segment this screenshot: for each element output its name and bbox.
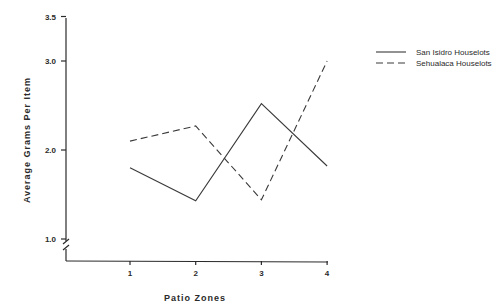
y-tick-label: 3.5 bbox=[45, 13, 57, 22]
x-axis-title: Patio Zones bbox=[164, 293, 226, 303]
series-line-2 bbox=[130, 61, 327, 200]
line-chart: 1.02.03.03.5 1234 Average Grams Per Item… bbox=[0, 0, 492, 308]
legend-label: Sehualaca Houselots bbox=[416, 59, 492, 68]
y-axis: 1.02.03.03.5 bbox=[45, 13, 69, 262]
y-tick-label: 3.0 bbox=[45, 57, 57, 66]
y-tick-label: 1.0 bbox=[45, 235, 57, 244]
y-tick-label: 2.0 bbox=[45, 146, 57, 155]
x-tick-label: 2 bbox=[193, 269, 198, 278]
x-tick-label: 1 bbox=[128, 269, 133, 278]
legend: San Isidro HouselotsSehualaca Houselots bbox=[376, 48, 492, 68]
series-line-1 bbox=[130, 104, 327, 201]
x-axis: 1234 bbox=[66, 261, 330, 278]
y-axis-title: Average Grams Per Item bbox=[22, 77, 32, 203]
x-tick-label: 4 bbox=[325, 269, 330, 278]
plot-series bbox=[130, 61, 327, 201]
legend-label: San Isidro Houselots bbox=[416, 48, 490, 57]
x-tick-label: 3 bbox=[259, 269, 264, 278]
